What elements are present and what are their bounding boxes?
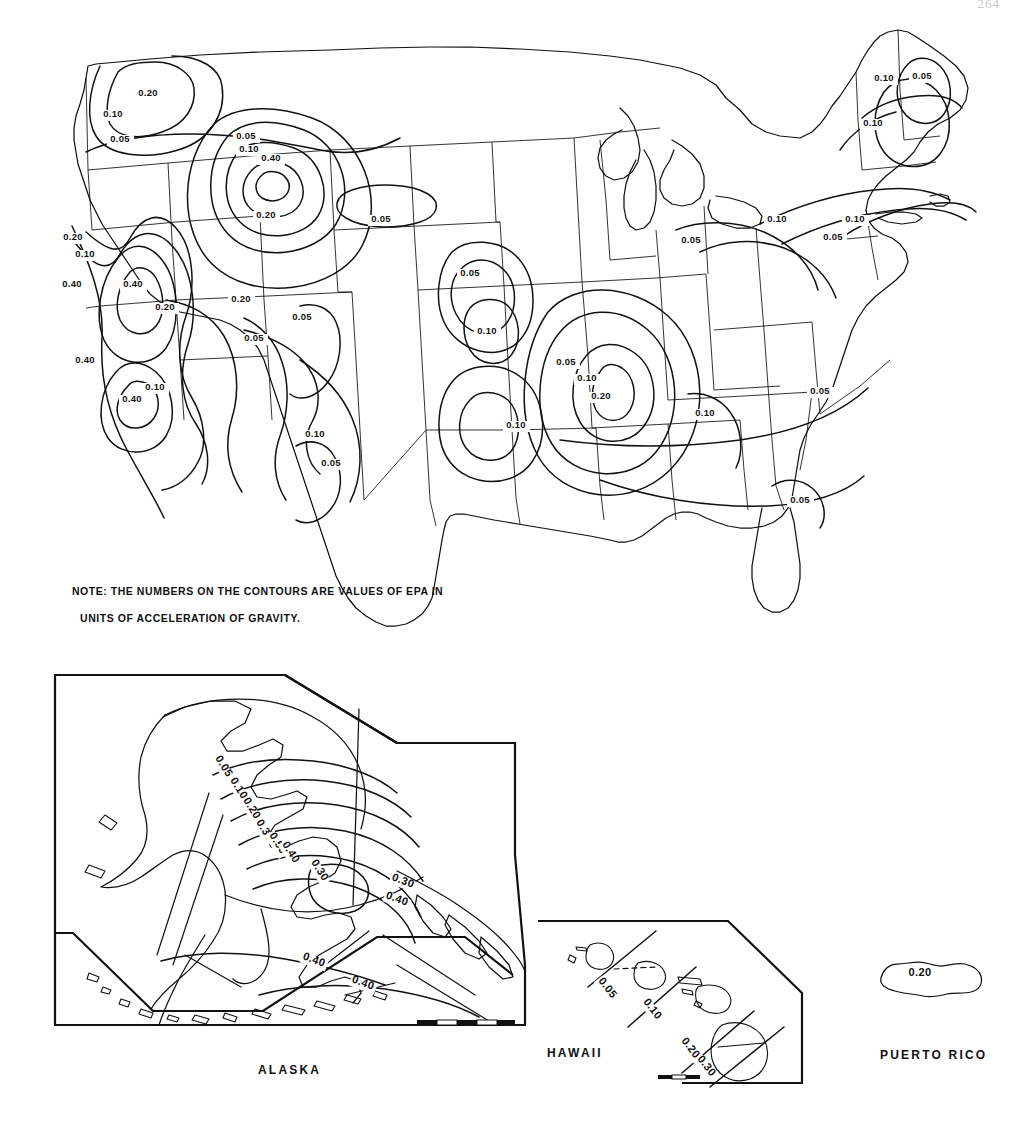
contour-value-label: 0.40: [123, 278, 143, 289]
alaska-se-islands-3: [479, 937, 513, 979]
puerto-rico-contour-labels: 0.20: [907, 966, 934, 980]
alaska-kenai-outline: [233, 909, 269, 984]
hawaii-inset-map: 0.050.100.200.30: [532, 915, 812, 1095]
florida-outline: [752, 508, 800, 612]
puerto-rico-inset-map: 0.20: [865, 940, 1005, 1020]
epa-contour-lines: [72, 56, 976, 528]
contour-value-label: 0.10: [577, 372, 597, 383]
alaska-epa-contours: [157, 760, 489, 1021]
aleutian-islands: [85, 815, 387, 1024]
contour-value-label: 0.40: [62, 278, 82, 289]
contour-value-label: 0.40: [122, 393, 142, 404]
contour-value-label: 0.10: [874, 72, 894, 83]
contour-value-label: 0.20: [231, 293, 251, 304]
contour-value-label: 0.05: [556, 356, 576, 367]
alaska-caption: ALASKA: [258, 1063, 321, 1077]
contour-value-label: 0.05: [810, 385, 830, 396]
contour-value-label: 0.05: [460, 267, 480, 278]
alaska-inset-map: 0.050.100.200.300.500.400.300.300.400.40…: [45, 665, 545, 1065]
contour-value-label: 0.10: [506, 419, 526, 430]
contour-value-label: 0.05: [371, 213, 391, 224]
contour-value-label: 0.05: [236, 130, 256, 141]
contour-value-label: 0.10: [103, 108, 123, 119]
contour-value-label: 0.20: [155, 301, 175, 312]
contour-value-label: 0.20: [591, 390, 611, 401]
contour-value-label: 0.05: [321, 457, 341, 468]
note-line-2: UNITS OF ACCELERATION OF GRAVITY.: [58, 612, 443, 626]
contour-value-label: 0.40: [75, 354, 95, 365]
contour-value-label: 0.20: [908, 966, 931, 978]
contour-value-label: 0.05: [790, 494, 810, 505]
contour-value-label: 0.10: [695, 407, 715, 418]
hawaii-contour-labels: 0.050.100.200.30: [594, 975, 719, 1082]
lake-michigan-outline: [624, 150, 656, 230]
alaska-east-border: [353, 709, 359, 905]
great-lakes-outline: [598, 108, 640, 180]
contour-value-label: 0.10: [305, 428, 325, 439]
hawaii-epa-contours: [588, 931, 784, 1087]
contour-value-label: 0.10: [239, 143, 259, 154]
contour-value-label: 0.10: [75, 248, 95, 259]
alaska-frame-inner: [55, 933, 513, 1011]
map-note: NOTE: THE NUMBERS ON THE CONTOURS ARE VA…: [58, 571, 443, 652]
contour-value-label: 0.10: [845, 213, 865, 224]
contour-value-label: 0.20: [138, 87, 158, 98]
contour-value-label: 0.20: [256, 209, 276, 220]
contour-value-label: 0.05: [244, 332, 264, 343]
map-page: 264: [0, 0, 1024, 1132]
contour-value-label: 0.10: [145, 381, 165, 392]
hawaii-islands: [568, 943, 768, 1081]
lake-huron-erie-outline: [660, 140, 704, 206]
long-island-outline: [876, 212, 922, 224]
alaska-scale-bar: [417, 1020, 515, 1025]
contour-value-label: 0.05: [823, 231, 843, 242]
puerto-rico-caption: PUERTO RICO: [880, 1048, 987, 1062]
conterminous-us-map: 0.200.100.050.100.400.050.200.050.050.10…: [0, 0, 1024, 660]
contour-value-label: 0.10: [477, 325, 497, 336]
alaska-mainland-outline: [163, 701, 361, 1003]
contour-value-label: 0.05: [110, 133, 130, 144]
note-line-1: NOTE: THE NUMBERS ON THE CONTOURS ARE VA…: [72, 585, 443, 597]
hawaii-caption: HAWAII: [547, 1046, 603, 1060]
contour-value-label: 0.05: [912, 70, 932, 81]
alaska-contour-labels: 0.050.100.200.300.500.400.300.300.400.40…: [211, 753, 418, 995]
contour-value-label: 0.10: [863, 117, 883, 128]
alaska-frame-inner-2: [285, 675, 397, 743]
contour-value-label: 0.05: [292, 311, 312, 322]
contour-value-label: 0.05: [681, 234, 701, 245]
state-boundaries: [86, 30, 940, 526]
contour-value-label: 0.20: [63, 231, 83, 242]
contour-value-label: 0.10: [767, 213, 787, 224]
us-national-boundary: [74, 30, 968, 626]
contour-value-label: 0.40: [261, 152, 281, 163]
hawaii-scale-bar: [658, 1075, 700, 1079]
